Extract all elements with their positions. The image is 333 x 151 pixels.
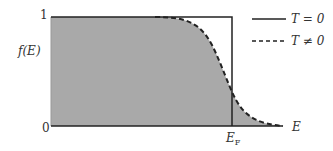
ef-main: E — [226, 131, 235, 145]
fermi-dirac-plot — [0, 0, 333, 151]
y-tick-zero: 0 — [42, 122, 50, 134]
x-axis-label: E — [292, 121, 301, 133]
ef-tick-label: EF — [226, 132, 240, 147]
y-axis-label: f(E) — [18, 45, 41, 57]
fill-area — [51, 17, 283, 126]
legend-dashed-label: T ≠ 0 — [291, 35, 324, 47]
legend-solid-label: T = 0 — [291, 13, 324, 25]
ef-sub: F — [235, 138, 241, 147]
y-tick-one: 1 — [40, 9, 48, 21]
